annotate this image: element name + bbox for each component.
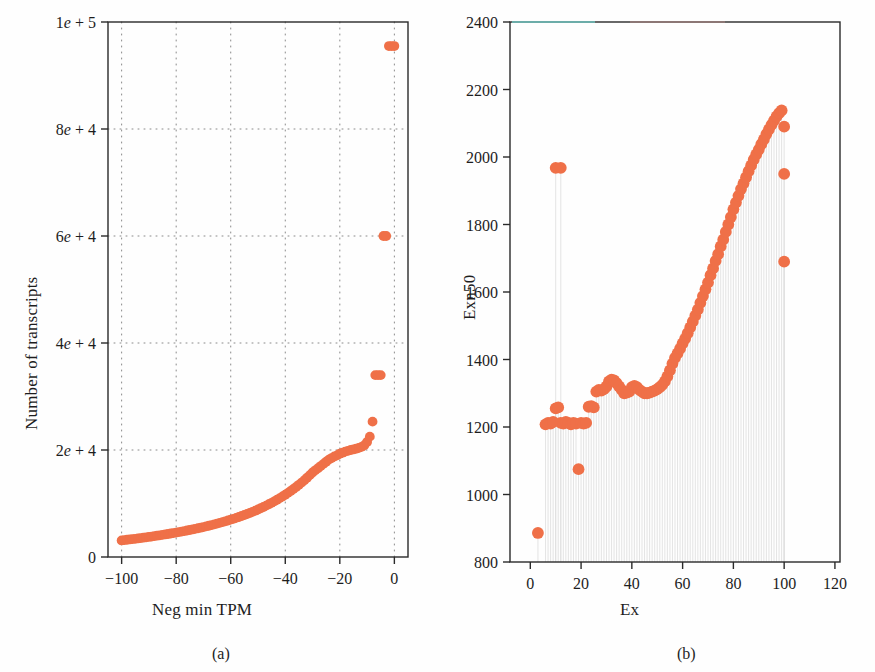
data-point xyxy=(381,231,391,241)
y-tick-label: 1000 xyxy=(466,487,498,504)
panel-b: 0204060801001208001000120014001600180020… xyxy=(440,0,875,672)
panel-a: −100−80−60−40−20002e + 44e + 46e + 48e +… xyxy=(0,0,440,672)
x-tick-label: 0 xyxy=(390,570,398,587)
panel-b-x-axis-label: Ex xyxy=(620,600,639,620)
x-tick-label: −80 xyxy=(164,570,189,587)
y-tick-label: 8e + 4 xyxy=(56,121,96,138)
x-tick-label: 20 xyxy=(573,575,589,592)
x-tick-label: −20 xyxy=(327,570,352,587)
y-tick-label: 2400 xyxy=(466,14,498,31)
y-tick-label: 1800 xyxy=(466,217,498,234)
plot-frame xyxy=(108,22,408,557)
y-tick-label: 6e + 4 xyxy=(56,228,96,245)
y-tick-label: 2e + 4 xyxy=(56,442,96,459)
x-tick-label: 120 xyxy=(823,575,847,592)
panel-b-y-axis-label: Exn50 xyxy=(460,275,480,320)
x-tick-label: 100 xyxy=(772,575,796,592)
y-tick-label: 0 xyxy=(88,549,96,566)
data-point xyxy=(552,402,564,414)
data-point xyxy=(588,402,600,414)
data-point xyxy=(365,432,375,442)
scatter-plot-b: 0204060801001208001000120014001600180020… xyxy=(440,0,875,672)
grid-lines xyxy=(108,22,408,557)
data-point xyxy=(368,417,378,427)
x-tick-label: −100 xyxy=(105,570,138,587)
data-point xyxy=(778,121,790,133)
data-point xyxy=(389,41,399,51)
data-point xyxy=(573,463,585,475)
y-tick-label: 1400 xyxy=(466,352,498,369)
x-tick-label: 60 xyxy=(675,575,691,592)
scatter-plot-a: −100−80−60−40−20002e + 44e + 46e + 48e +… xyxy=(0,0,440,672)
data-point xyxy=(778,168,790,180)
figure-container: −100−80−60−40−20002e + 44e + 46e + 48e +… xyxy=(0,0,875,672)
x-tick-label: −60 xyxy=(218,570,243,587)
x-tick-label: 40 xyxy=(624,575,640,592)
axes xyxy=(101,22,408,564)
tick-labels: −100−80−60−40−20002e + 44e + 46e + 48e +… xyxy=(56,14,399,587)
y-tick-label: 1200 xyxy=(466,419,498,436)
data-points xyxy=(117,41,400,545)
data-point xyxy=(778,256,790,268)
y-tick-label: 2000 xyxy=(466,149,498,166)
x-tick-label: −40 xyxy=(273,570,298,587)
data-point xyxy=(580,417,592,429)
panel-a-x-axis-label: Neg min TPM xyxy=(152,600,252,620)
data-point xyxy=(555,162,567,174)
panel-a-y-axis-label: Number of transcripts xyxy=(22,277,42,430)
y-tick-label: 800 xyxy=(474,554,498,571)
x-tick-label: 0 xyxy=(526,575,534,592)
y-tick-label: 2200 xyxy=(466,82,498,99)
tick-labels: 0204060801001208001000120014001600180020… xyxy=(466,14,847,592)
y-tick-label: 1e + 5 xyxy=(56,14,96,31)
data-point xyxy=(376,370,386,380)
data-point xyxy=(776,105,788,117)
panel-b-caption: (b) xyxy=(677,645,696,663)
data-point xyxy=(532,527,544,539)
y-tick-label: 4e + 4 xyxy=(56,335,96,352)
panel-a-caption: (a) xyxy=(212,645,230,663)
x-tick-label: 80 xyxy=(725,575,741,592)
